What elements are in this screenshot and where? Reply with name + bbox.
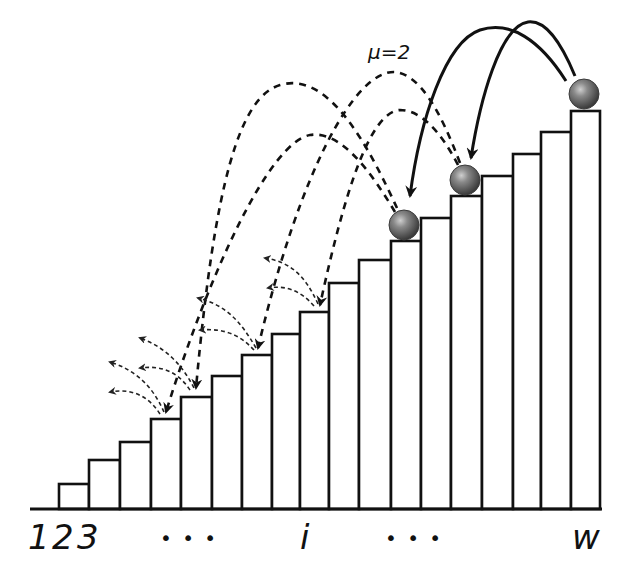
- axis-label-3: 3: [77, 520, 99, 554]
- axis-label-5: i: [300, 520, 309, 554]
- small-jump-arc: [265, 258, 318, 304]
- small-jump-arc: [198, 298, 256, 348]
- bar-2: [89, 460, 120, 509]
- axis-label-7: w: [572, 520, 600, 554]
- axis-label-4: • • •: [160, 528, 218, 548]
- axis-label-1: 1: [28, 520, 50, 554]
- ball-2: [450, 165, 480, 195]
- bar-1: [59, 484, 89, 509]
- bar-14: [451, 196, 482, 509]
- ball-3: [569, 79, 599, 109]
- small-jump-arc: [110, 362, 164, 412]
- bar-6: [212, 376, 242, 509]
- bar-8: [272, 334, 300, 509]
- small-jump-arc: [140, 338, 194, 388]
- small-jump-arc: [200, 330, 254, 350]
- bar-9: [300, 312, 329, 509]
- bar-5: [181, 397, 212, 509]
- bar-10: [329, 283, 359, 509]
- bar-3: [120, 442, 151, 509]
- bar-12: [391, 241, 421, 509]
- mu-annotation: μ=2: [368, 40, 410, 64]
- staircase-diagram: [0, 0, 627, 576]
- bar-18: [571, 111, 600, 509]
- bars-group: [59, 111, 600, 509]
- bar-16: [513, 154, 541, 509]
- axis-label-6: • • •: [385, 528, 443, 548]
- bar-15: [482, 176, 513, 509]
- bar-17: [541, 132, 571, 509]
- bar-11: [359, 260, 391, 509]
- bar-13: [421, 218, 451, 509]
- bar-7: [242, 355, 272, 509]
- bar-4: [151, 419, 181, 509]
- axis-label-2: 2: [52, 520, 74, 554]
- small-jump-arc: [268, 287, 314, 306]
- ball-1: [389, 210, 419, 240]
- small-jump-arc: [110, 391, 160, 414]
